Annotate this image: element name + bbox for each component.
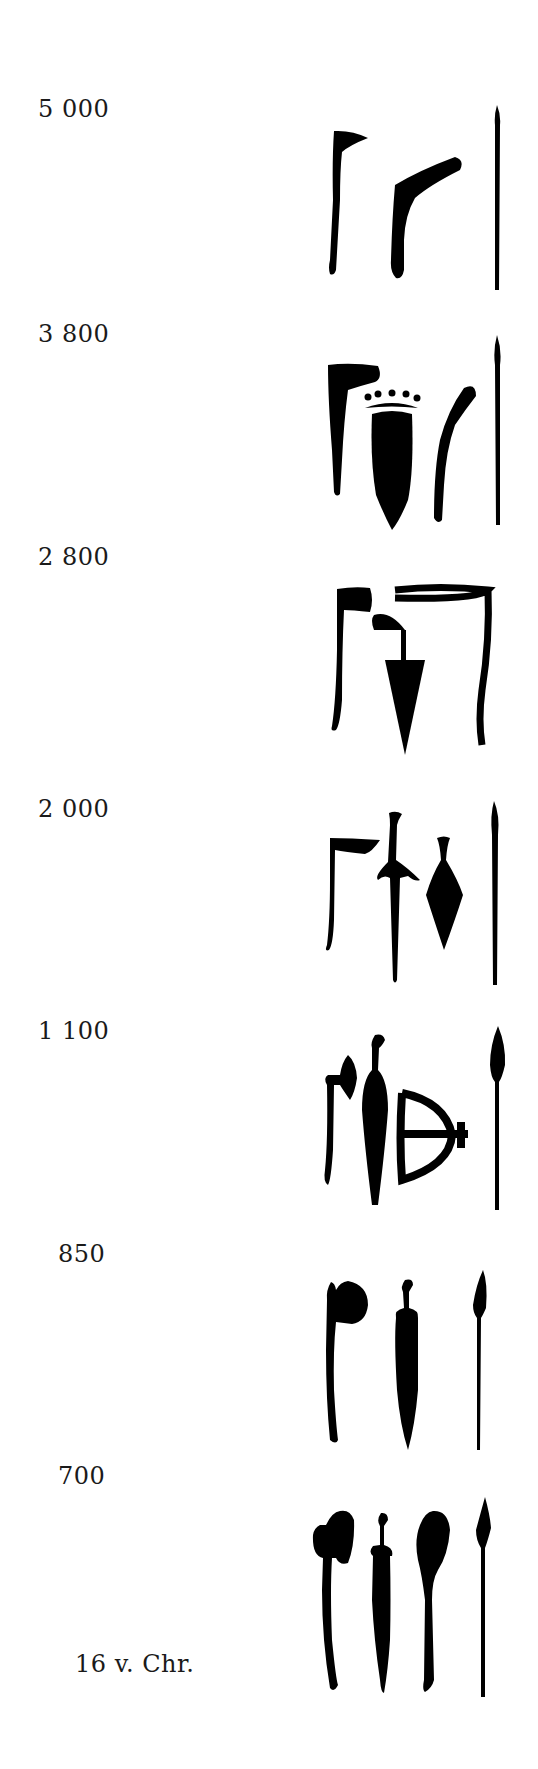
- sword-icon: [395, 1280, 418, 1450]
- sword-icon: [377, 812, 420, 983]
- row-2000: [326, 801, 499, 985]
- spear-icon: [491, 801, 498, 985]
- triangular-dagger-icon: [372, 614, 425, 755]
- axe-icon: [326, 1281, 368, 1443]
- row-700: [313, 1497, 491, 1697]
- mace-icon: [416, 1511, 450, 1692]
- dagger-icon: [426, 837, 463, 951]
- spear-icon: [494, 335, 500, 525]
- battle-axe-icon: [324, 1055, 357, 1185]
- spear-icon: [476, 1497, 491, 1697]
- row-1100: [324, 1026, 505, 1210]
- boomerang-club-icon: [391, 157, 462, 278]
- axe-icon: [326, 838, 380, 950]
- axe-icon: [329, 131, 368, 275]
- mace-dagger-icon: [365, 390, 421, 531]
- row-2800: [332, 587, 489, 755]
- axe-icon: [313, 1511, 354, 1690]
- bow-and-arrow-icon: [401, 1093, 469, 1180]
- weapons-illustration: [0, 0, 538, 1769]
- row-850: [326, 1270, 487, 1450]
- spear-icon: [495, 105, 500, 290]
- axe-icon: [332, 587, 373, 730]
- boomerang-club-icon: [434, 386, 476, 522]
- spear-icon: [473, 1270, 487, 1450]
- row-3800: [328, 335, 501, 530]
- spear-icon: [490, 1026, 505, 1210]
- row-5000: [329, 105, 500, 290]
- sword-icon: [362, 1035, 388, 1205]
- sword-icon: [371, 1513, 393, 1693]
